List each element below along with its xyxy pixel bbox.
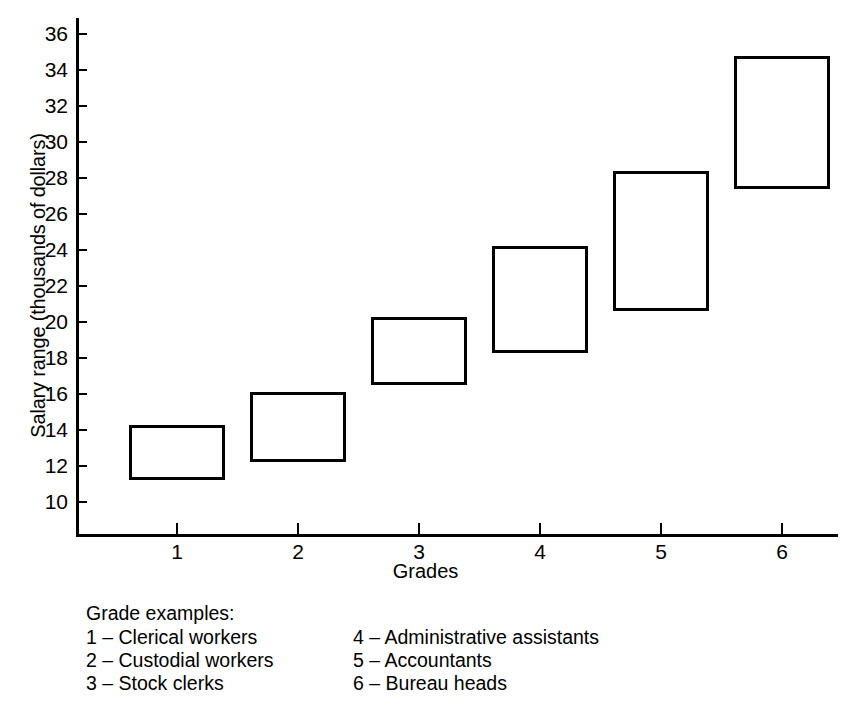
y-tick-mark — [76, 501, 87, 503]
legend-item-left-1: 1 – Clerical workers — [86, 626, 353, 649]
y-tick-mark — [76, 321, 87, 323]
legend-column-right: 4 – Administrative assistants5 – Account… — [353, 626, 599, 695]
y-tick-label: 20 — [22, 311, 68, 332]
y-tick-mark — [76, 69, 87, 71]
x-axis-line — [76, 534, 838, 537]
y-tick-mark — [76, 465, 87, 467]
y-tick-label: 14 — [22, 419, 68, 440]
range-box-grade-4 — [492, 246, 588, 352]
y-tick-label: 10 — [22, 491, 68, 512]
legend-item-right-3: 6 – Bureau heads — [353, 672, 599, 695]
y-tick-mark — [76, 213, 87, 215]
x-tick-label: 5 — [641, 541, 681, 562]
range-box-grade-2 — [250, 392, 346, 462]
y-axis-line — [76, 18, 79, 537]
legend-column-left: 1 – Clerical workers2 – Custodial worker… — [86, 626, 353, 695]
x-tick-label: 2 — [278, 541, 318, 562]
y-tick-mark — [76, 105, 87, 107]
legend-item-right-1: 4 – Administrative assistants — [353, 626, 599, 649]
y-tick-label: 28 — [22, 167, 68, 188]
y-tick-label: 26 — [22, 203, 68, 224]
y-tick-mark — [76, 357, 87, 359]
x-tick-mark — [781, 523, 783, 534]
y-tick-mark — [76, 177, 87, 179]
x-tick-mark — [176, 523, 178, 534]
y-tick-mark — [76, 285, 87, 287]
y-tick-mark — [76, 249, 87, 251]
range-box-grade-3 — [371, 317, 467, 385]
y-tick-label: 12 — [22, 455, 68, 476]
y-tick-label: 16 — [22, 383, 68, 404]
x-tick-label: 4 — [520, 541, 560, 562]
y-tick-label: 18 — [22, 347, 68, 368]
grade-examples-legend: Grade examples: 1 – Clerical workers2 – … — [86, 602, 786, 695]
y-tick-label: 22 — [22, 275, 68, 296]
legend-title: Grade examples: — [86, 602, 786, 625]
legend-item-left-2: 2 – Custodial workers — [86, 649, 353, 672]
y-tick-label: 30 — [22, 131, 68, 152]
x-tick-label: 6 — [762, 541, 802, 562]
y-tick-mark — [76, 33, 87, 35]
y-tick-label: 32 — [22, 95, 68, 116]
x-tick-label: 1 — [157, 541, 197, 562]
y-tick-label: 36 — [22, 23, 68, 44]
y-tick-mark — [76, 429, 87, 431]
range-box-grade-6 — [734, 56, 830, 189]
y-tick-mark — [76, 141, 87, 143]
x-tick-mark — [418, 523, 420, 534]
x-tick-mark — [660, 523, 662, 534]
y-tick-label: 34 — [22, 59, 68, 80]
y-tick-mark — [76, 393, 87, 395]
x-tick-mark — [297, 523, 299, 534]
y-tick-label: 24 — [22, 239, 68, 260]
x-tick-mark — [539, 523, 541, 534]
x-tick-label: 3 — [399, 541, 439, 562]
x-axis-title: Grades — [0, 560, 851, 583]
legend-item-right-2: 5 – Accountants — [353, 649, 599, 672]
legend-item-left-3: 3 – Stock clerks — [86, 672, 353, 695]
range-box-grade-1 — [129, 425, 225, 481]
range-box-grade-5 — [613, 171, 709, 311]
